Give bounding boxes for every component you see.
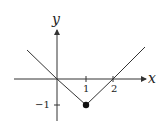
graph: x y 1 2 −1 [0, 0, 166, 124]
x-axis-label: x [148, 70, 156, 86]
tick-label-x2: 2 [111, 83, 117, 94]
tick-label-ym1: −1 [35, 99, 50, 110]
y-axis-label: y [51, 11, 61, 27]
vertex-point [83, 102, 89, 108]
tick-label-x1: 1 [83, 83, 89, 94]
